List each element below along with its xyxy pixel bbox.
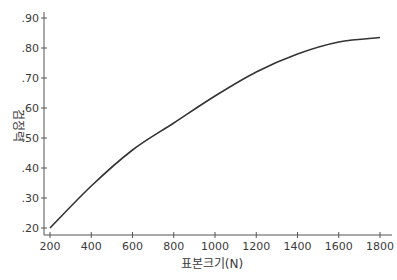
y-tick-label: .20 [22, 222, 40, 235]
x-tick-label: 200 [40, 240, 61, 253]
x-tick-label: 800 [163, 240, 184, 253]
y-tick-label: .40 [22, 162, 40, 175]
x-axis: 20040060080010001200140016001800 [40, 232, 395, 253]
power-curve-line [50, 38, 380, 229]
x-tick-label: 1200 [242, 240, 270, 253]
x-tick-label: 400 [81, 240, 102, 253]
y-tick-label: .30 [22, 192, 40, 205]
x-tick-label: 1000 [201, 240, 229, 253]
x-tick-label: 600 [122, 240, 143, 253]
y-axis-title: 검정력 [11, 109, 25, 142]
y-tick-label: .80 [22, 42, 40, 55]
y-tick-label: .70 [22, 72, 40, 85]
x-tick-label: 1800 [366, 240, 394, 253]
y-tick-label: .90 [22, 12, 40, 25]
x-tick-label: 1400 [284, 240, 312, 253]
power-curve-chart: .20.30.40.50.60.70.80.90 200400600800100… [0, 0, 397, 280]
x-tick-label: 1600 [325, 240, 353, 253]
x-axis-title: 표본크기(N) [181, 257, 243, 271]
